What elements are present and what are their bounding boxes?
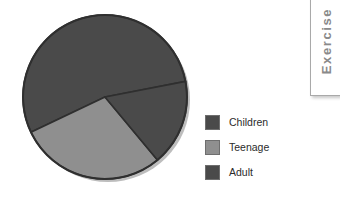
legend-swatch-children	[205, 115, 220, 130]
chart-legend: Children Teenage Adult	[205, 110, 300, 185]
pie-chart-svg	[21, 13, 191, 183]
legend-label-teenage: Teenage	[229, 142, 269, 153]
exercise-side-tab[interactable]: Exercise	[310, 0, 340, 96]
pie-chart	[21, 13, 191, 183]
legend-swatch-teenage	[205, 140, 220, 155]
legend-item-adult[interactable]: Adult	[205, 160, 300, 185]
legend-item-teenage[interactable]: Teenage	[205, 135, 300, 160]
legend-label-adult: Adult	[229, 167, 253, 178]
legend-item-children[interactable]: Children	[205, 110, 300, 135]
exercise-side-tab-label: Exercise	[318, 8, 333, 74]
legend-swatch-adult	[205, 165, 220, 180]
legend-label-children: Children	[229, 117, 268, 128]
